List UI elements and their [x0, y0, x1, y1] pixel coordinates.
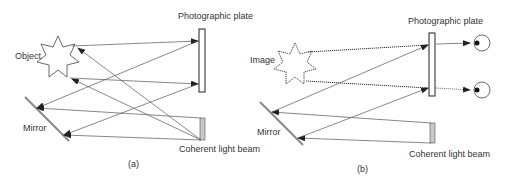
panel-b [260, 33, 490, 145]
plate-label-a: Photographic plate [178, 12, 253, 21]
image-star-icon [274, 43, 316, 84]
photographic-plate [429, 33, 435, 96]
coherent-light-source [200, 118, 205, 140]
caption-a: (a) [128, 160, 139, 169]
mirror [260, 102, 303, 145]
mirror-label-a: Mirror [23, 124, 47, 133]
beam-label-a: Coherent light beam [179, 145, 260, 154]
plate-label-b: Photographic plate [408, 17, 483, 26]
coherent-light-source [430, 123, 435, 143]
eye-icon-bottom [474, 82, 490, 98]
caption-b: (b) [357, 165, 368, 174]
panel-a [25, 29, 205, 141]
mirror-label-b: Mirror [257, 128, 281, 137]
object-label: Object [15, 52, 41, 61]
object-star-icon [37, 36, 79, 77]
photographic-plate [199, 29, 205, 92]
eye-icon-top [474, 35, 490, 51]
image-label: Image [250, 56, 275, 65]
beam-label-b: Coherent light beam [409, 150, 490, 159]
